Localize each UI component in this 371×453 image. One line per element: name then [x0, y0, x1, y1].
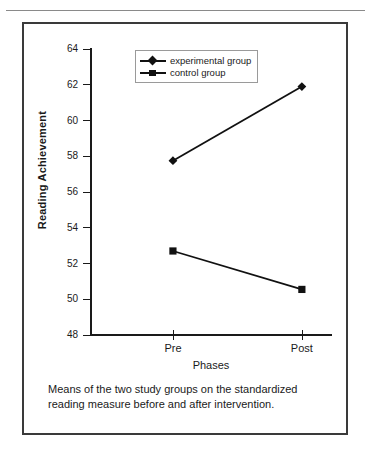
diamond-marker-icon	[297, 82, 306, 91]
series-experimental-group	[169, 82, 307, 165]
legend-label-experimental-group: experimental group	[170, 55, 251, 66]
square-marker-icon	[140, 67, 166, 78]
series-line	[173, 87, 302, 161]
caption-line-2: reading measure before and after interve…	[48, 397, 328, 412]
caption-line-1: Means of the two study groups on the sta…	[48, 382, 328, 397]
diamond-marker-icon	[140, 55, 166, 66]
series-control-group	[169, 247, 305, 293]
plot-area: 485052545658606264 PrePost Reading Achie…	[24, 24, 346, 369]
legend-entry-experimental-group: experimental group	[140, 55, 251, 66]
figure-frame: 485052545658606264 PrePost Reading Achie…	[22, 22, 348, 435]
diamond-marker-icon	[169, 156, 178, 165]
top-horizontal-rule	[6, 10, 365, 11]
legend: experimental group control group	[135, 50, 258, 83]
series-line	[173, 251, 302, 289]
square-marker-icon	[298, 286, 305, 293]
legend-label-control-group: control group	[170, 67, 225, 78]
legend-entry-control-group: control group	[140, 67, 251, 78]
figure-caption: Means of the two study groups on the sta…	[48, 382, 328, 412]
square-marker-icon	[169, 247, 176, 254]
